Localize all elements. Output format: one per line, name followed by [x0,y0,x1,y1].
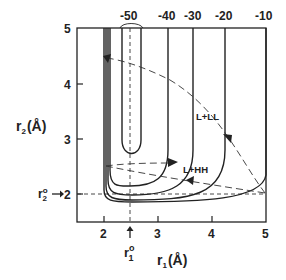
contour-lines [104,28,266,202]
r2-equilibrium-label: ro2 [38,186,48,203]
x-tick-5: 5 [262,227,269,241]
y-tick-3: 3 [64,133,71,147]
x-tick-2: 2 [100,227,107,241]
y-tick-2: 2 [64,188,71,202]
contour-labels: -50 -40 -30 -20 -10 [120,9,273,28]
contour-label-minus10: -10 [255,9,273,23]
contour-label-minus40: -40 [158,9,176,23]
y-axis-label: r2(Å) [16,118,46,136]
contour-label-minus50: -50 [120,9,138,23]
y-tick-4: 4 [64,78,71,92]
y-tick-5: 5 [64,22,71,36]
path-LHH-upper [106,163,170,166]
path-LHH-lower-arrow-icon [186,176,194,185]
contour-label-minus30: -30 [184,9,202,23]
minus50-bracket [120,24,143,29]
contour-minus30 [108,28,193,195]
y-axis: 5 4 3 2 r2(Å) ro2 [16,22,83,203]
x-tick-3: 3 [154,227,161,241]
contour-diagram: -50 -40 -30 -20 -10 5 4 3 2 r2(Å) ro2 2 … [0,0,286,280]
region-label-LHH: L+HH [183,164,208,175]
r1-equilibrium-label: ro1 [124,243,135,263]
contour-minus10 [104,28,266,202]
contour-minus50 [122,28,141,154]
contour-label-minus20: -20 [215,9,233,23]
contour-minus40 [110,28,168,186]
region-label-LLL: L+LL [196,111,219,122]
reaction-paths: L+LL L+HH [103,54,265,193]
r1-arrow-icon [127,226,134,231]
x-tick-4: 4 [208,227,215,241]
path-LHH-upper-arrow-icon [168,158,178,167]
x-axis: 2 3 4 5 ro1 r1(Å) [100,216,269,270]
x-axis-label: r1(Å) [157,252,187,270]
